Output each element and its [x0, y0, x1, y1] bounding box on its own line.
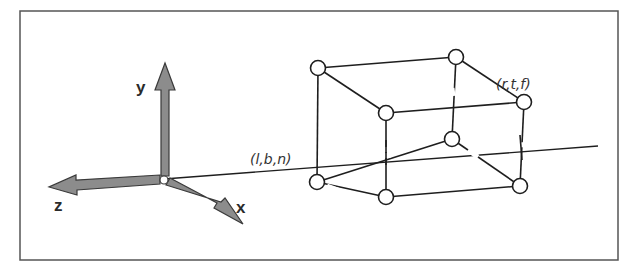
origin-marker	[160, 176, 168, 184]
edge-bottom-front	[386, 186, 520, 197]
edge-vertical-back-left	[317, 68, 318, 182]
edge-bottom-back	[317, 139, 452, 182]
edge-top-front	[386, 102, 524, 113]
vertex-back-bottom-right	[445, 132, 460, 147]
vertex-front-top-right	[517, 95, 532, 110]
edge-bottom-left	[317, 182, 386, 197]
edge-vertical-back-right	[452, 57, 456, 139]
box-edges	[317, 57, 524, 197]
y-axis-arrow	[155, 63, 175, 176]
z-axis-arrow	[49, 175, 160, 195]
y-axis-label: y	[136, 78, 146, 97]
vertex-front-bottom-left	[379, 190, 394, 205]
vertex-front-top-left	[379, 106, 394, 121]
vertex-back-bottom-left	[310, 175, 325, 190]
coordinate-axes	[49, 63, 243, 224]
x-axis-label: x	[236, 198, 246, 217]
view-volume-figure: y z x (l,b,n) (r,t,f)	[0, 0, 637, 269]
x-axis-arrow	[166, 178, 243, 224]
edge-top-left	[318, 68, 386, 113]
edge-bottom-right	[452, 139, 520, 186]
figure-frame	[20, 11, 618, 260]
near-corner-label: (l,b,n)	[250, 151, 291, 167]
z-axis-label: z	[54, 196, 63, 215]
far-corner-label: (r,t,f)	[496, 76, 531, 92]
vertex-back-top-right	[449, 50, 464, 65]
vertex-back-top-left	[311, 61, 326, 76]
box-vertices	[310, 50, 532, 205]
edge-top-back	[318, 57, 456, 68]
vertex-front-bottom-right	[513, 179, 528, 194]
